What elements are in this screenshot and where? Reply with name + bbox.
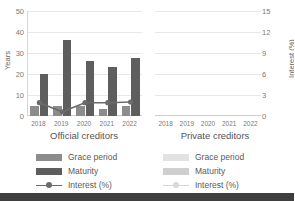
- legend-label: Maturity: [195, 166, 225, 176]
- y-tick-label: 20: [2, 70, 24, 79]
- bar-grace-period: [30, 106, 39, 117]
- legend-item-grace-period[interactable]: Grace period: [36, 150, 166, 164]
- y-tick-label: 3: [262, 91, 284, 100]
- y-tick-label: 0: [2, 112, 24, 121]
- bar-maturity: [86, 61, 95, 116]
- panel-caption-official: Official creditors: [14, 130, 154, 141]
- bar-maturity: [63, 40, 72, 116]
- y-axis-left-ticks: 50403020100: [2, 0, 24, 122]
- gridline: [155, 11, 261, 12]
- y-tick-label: 0: [262, 112, 284, 121]
- plot-area-official: [27, 11, 142, 116]
- gridline: [28, 32, 142, 33]
- gridline: [155, 32, 261, 33]
- legend-label: Maturity: [68, 166, 98, 176]
- y-axis-right-ticks: 15129630: [262, 0, 286, 122]
- chart-container: Years Interest (%) 50403020100 15129630 …: [0, 0, 294, 201]
- bar-grace-period: [99, 109, 108, 116]
- gridline: [155, 95, 261, 96]
- legend-item-maturity[interactable]: Maturity: [36, 164, 166, 178]
- legend-swatch-maturity-icon: [163, 168, 189, 175]
- legend-line-marker-icon: [163, 181, 189, 190]
- legend-item-interest[interactable]: Interest (%): [36, 178, 166, 192]
- gridline: [28, 53, 142, 54]
- legend-swatch-grace-period-icon: [163, 154, 189, 161]
- bar-grace-period: [122, 106, 131, 117]
- legend-official: Grace period Maturity Interest (%): [36, 150, 166, 192]
- x-axis-line: [155, 115, 261, 116]
- bar-maturity: [108, 67, 117, 116]
- legend-label: Interest (%): [68, 180, 112, 190]
- legend-private: Grace period Maturity Interest (%): [163, 150, 293, 192]
- x-tick-label: 2022: [237, 118, 263, 129]
- bar-grace-period: [53, 106, 62, 117]
- gridline: [155, 74, 261, 75]
- legend-swatch-maturity-icon: [36, 168, 62, 175]
- y-tick-label: 40: [2, 28, 24, 37]
- gridline: [28, 11, 142, 12]
- x-axis-ticks-official: 20182019202020212022: [27, 118, 141, 129]
- panel-caption-private: Private creditors: [148, 130, 282, 141]
- legend-item-grace-period[interactable]: Grace period: [163, 150, 293, 164]
- legend-label: Grace period: [68, 152, 117, 162]
- legend-label: Grace period: [195, 152, 244, 162]
- y-tick-label: 6: [262, 70, 284, 79]
- y-tick-label: 30: [2, 49, 24, 58]
- x-axis-ticks-private: 20182019202020212022: [155, 118, 261, 129]
- bar-maturity: [40, 74, 49, 116]
- legend-item-interest[interactable]: Interest (%): [163, 178, 293, 192]
- plot-area-private: [155, 11, 261, 116]
- y-tick-label: 15: [262, 7, 284, 16]
- y-tick-label: 10: [2, 91, 24, 100]
- bottom-bar: [0, 193, 294, 201]
- interest-line-private: [155, 11, 261, 116]
- y-tick-label: 50: [2, 7, 24, 16]
- legend-item-maturity[interactable]: Maturity: [163, 164, 293, 178]
- x-tick-label: 2022: [117, 118, 143, 129]
- bar-maturity: [131, 58, 140, 116]
- y-tick-label: 9: [262, 49, 284, 58]
- gridline: [155, 53, 261, 54]
- bar-grace-period: [76, 106, 85, 117]
- legend-line-marker-icon: [36, 181, 62, 190]
- y-axis-right-title: Interest (%): [287, 36, 295, 82]
- legend-swatch-grace-period-icon: [36, 154, 62, 161]
- legend-label: Interest (%): [195, 180, 239, 190]
- y-tick-label: 12: [262, 28, 284, 37]
